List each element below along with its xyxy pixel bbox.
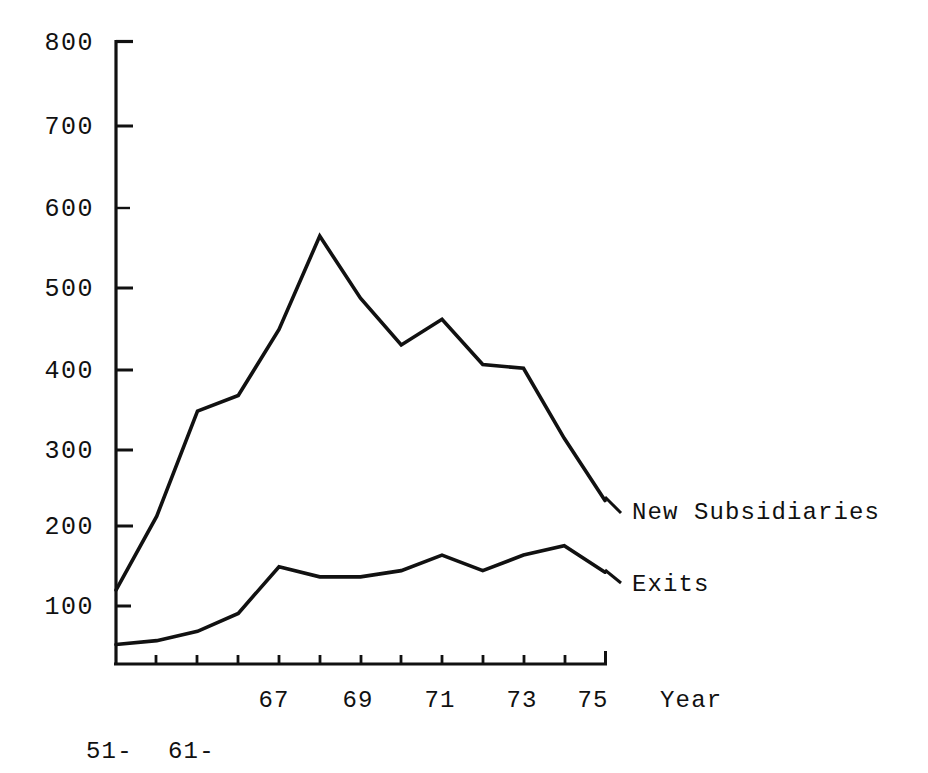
x-tick-label-61-65-line1: 61-: [168, 739, 230, 764]
x-tick-label-73: 73: [501, 688, 543, 715]
x-tick-label-71: 71: [419, 688, 461, 715]
y-tick-label-100: 100: [16, 594, 94, 622]
y-tick-label-200: 200: [16, 514, 94, 542]
x-tick-label-51-55: 51- 55*: [86, 688, 148, 773]
y-tick-label-400: 400: [16, 358, 94, 386]
y-tick-label-300: 300: [16, 438, 94, 466]
x-tick-label-69: 69: [337, 688, 379, 715]
x-tick-label-75: 75: [572, 688, 614, 715]
y-tick-label-800: 800: [16, 30, 94, 58]
series-label-new-subsidiaries: New Subsidiaries: [632, 500, 880, 527]
y-tick-label-500: 500: [16, 276, 94, 304]
y-tick-label-700: 700: [16, 114, 94, 142]
series-label-exits: Exits: [632, 572, 710, 599]
x-axis-title: Year: [660, 688, 722, 715]
x-tick-label-61-65: 61- 65*: [168, 688, 230, 773]
chart-canvas: [0, 0, 928, 773]
x-tick-label-51-55-line1: 51-: [86, 739, 148, 764]
x-tick-label-67: 67: [253, 688, 295, 715]
chart-figure: 800 700 600 500 400 300 200 100 51- 55* …: [0, 0, 928, 773]
y-tick-label-600: 600: [16, 196, 94, 224]
chart-background: [0, 0, 928, 773]
